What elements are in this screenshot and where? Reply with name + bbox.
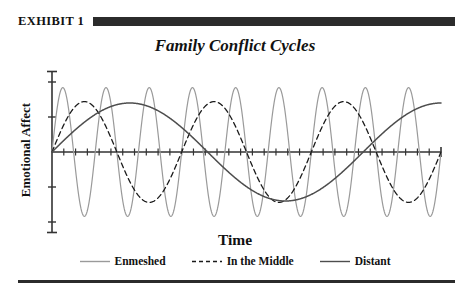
legend-item-distant[interactable]: Distant bbox=[320, 255, 391, 267]
legend-item-enmeshed[interactable]: Enmeshed bbox=[80, 255, 166, 267]
chart-axes bbox=[47, 72, 441, 233]
bottom-rule bbox=[18, 280, 455, 283]
legend-swatch-line-icon bbox=[192, 257, 222, 266]
chart-title: Family Conflict Cycles bbox=[0, 36, 470, 56]
legend-swatch-line-icon bbox=[80, 257, 110, 266]
legend-label: Distant bbox=[355, 255, 391, 267]
exhibit-header: EXHIBIT 1 bbox=[18, 12, 455, 30]
exhibit-label: EXHIBIT 1 bbox=[18, 14, 84, 29]
legend-label: Enmeshed bbox=[115, 255, 166, 267]
exhibit-page: EXHIBIT 1 Family Conflict Cycles Emotion… bbox=[0, 0, 470, 291]
y-axis-title: Emotional Affect bbox=[18, 80, 34, 220]
chart-legend: EnmeshedIn the MiddleDistant bbox=[0, 255, 470, 267]
chart-plot-area: Emotional Affect bbox=[0, 60, 470, 245]
chart-svg bbox=[0, 60, 470, 245]
legend-item-in-the-middle[interactable]: In the Middle bbox=[192, 255, 294, 267]
x-axis-title: Time bbox=[0, 231, 470, 249]
legend-swatch-line-icon bbox=[320, 257, 350, 266]
exhibit-rule-bar bbox=[93, 17, 455, 26]
legend-label: In the Middle bbox=[227, 255, 294, 267]
